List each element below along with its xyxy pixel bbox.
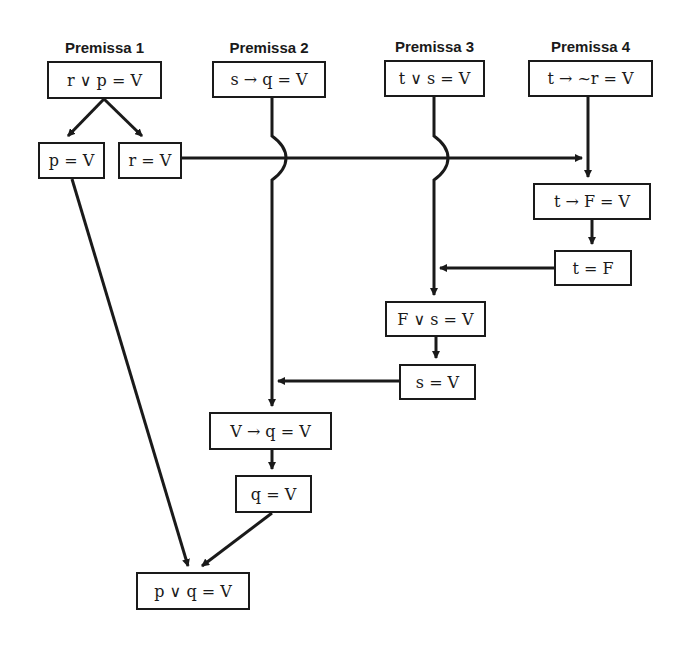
premise-3-title: Premissa 3 — [384, 38, 485, 55]
step-t-false: t = F — [554, 250, 632, 286]
premise-1-title: Premissa 1 — [47, 39, 162, 56]
premise-2-title: Premissa 2 — [212, 39, 326, 56]
premise-4-box: t → ~r = V — [528, 60, 653, 97]
premise-2-box: s → q = V — [212, 61, 326, 98]
premise-4-title: Premissa 4 — [528, 38, 653, 55]
step-p-true: p = V — [38, 142, 105, 179]
step-r-true: r = V — [118, 142, 182, 179]
step-s-true: s = V — [399, 364, 476, 400]
premise-3-box: t ∨ s = V — [384, 60, 485, 97]
premise-1-box: r ∨ p = V — [47, 61, 162, 99]
step-q-true: q = V — [235, 475, 312, 513]
step-F-or-s: F ∨ s = V — [385, 301, 486, 337]
logic-deduction-diagram: Premissa 1 r ∨ p = V Premissa 2 s → q = … — [0, 0, 688, 656]
conclusion-box: p ∨ q = V — [136, 572, 250, 610]
step-V-implies-q: V → q = V — [209, 412, 332, 450]
step-t-implies-F: t → F = V — [533, 183, 651, 220]
